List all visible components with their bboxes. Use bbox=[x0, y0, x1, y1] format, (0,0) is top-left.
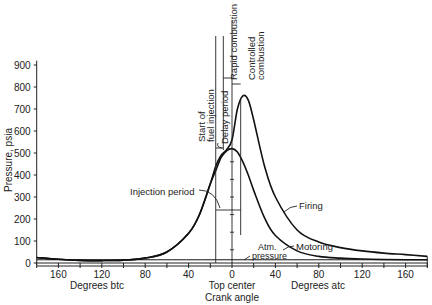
y-tick-label: 400 bbox=[14, 170, 31, 181]
y-tick-label: 600 bbox=[14, 126, 31, 137]
label-motoring: Motoring bbox=[296, 241, 333, 252]
label-firing: Firing bbox=[299, 200, 323, 211]
x-axis-label: Crank angle bbox=[205, 292, 259, 303]
label-delay-period: Delay period bbox=[219, 91, 230, 144]
label-injection-period: Injection period bbox=[130, 186, 194, 197]
x-tick-label: 40 bbox=[183, 269, 195, 280]
y-tick-label: 500 bbox=[14, 148, 31, 159]
x-tick-label: 80 bbox=[140, 269, 152, 280]
label-atm-2: pressure bbox=[252, 251, 287, 261]
y-tick-label: 300 bbox=[14, 192, 31, 203]
x-sublabel-atc: Degrees atc bbox=[291, 280, 345, 291]
y-tick-label: 100 bbox=[14, 236, 31, 247]
y-tick-label: 900 bbox=[14, 60, 31, 71]
x-tick-label: 120 bbox=[354, 269, 371, 280]
label-controlled-2: combustion bbox=[255, 31, 266, 80]
y-tick-label: 0 bbox=[25, 258, 31, 269]
x-tick-label: 80 bbox=[313, 269, 325, 280]
x-sublabel-btc: Degrees btc bbox=[70, 280, 124, 291]
x-tick-label: 40 bbox=[270, 269, 282, 280]
x-tick-label: 160 bbox=[50, 269, 67, 280]
label-start-injection-2: fuel injection bbox=[205, 89, 216, 142]
y-tick-label: 200 bbox=[14, 214, 31, 225]
x-sublabel-top-center: Top center bbox=[209, 280, 256, 291]
firing-leader bbox=[284, 206, 297, 212]
y-axis-label: Pressure, psia bbox=[3, 128, 14, 192]
y-tick-label: 700 bbox=[14, 104, 31, 115]
y-axis-ticks: 0100200300400500600700800900 bbox=[14, 60, 37, 269]
x-tick-label: 120 bbox=[93, 269, 110, 280]
x-tick-label: 160 bbox=[397, 269, 414, 280]
pressure-crank-angle-chart: 0100200300400500600700800900 16012080400… bbox=[0, 0, 432, 305]
y-tick-label: 800 bbox=[14, 82, 31, 93]
x-tick-label: 0 bbox=[229, 269, 235, 280]
label-rapid-combustion: Rapid combustion bbox=[228, 4, 239, 80]
